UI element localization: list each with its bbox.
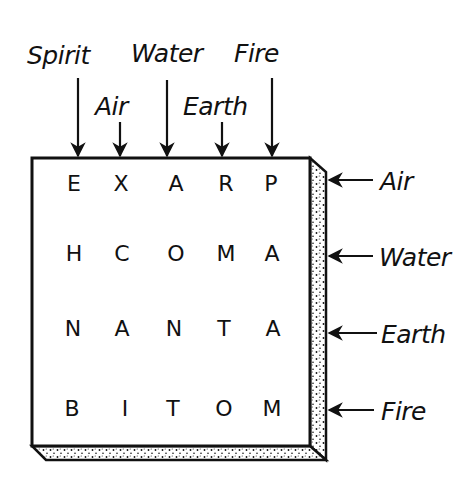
grid-cell-r2c2: C	[114, 241, 129, 266]
grid-cell-r2c5: A	[264, 241, 279, 266]
grid-cell-r4c1: B	[64, 396, 79, 421]
grid-cell-r3c5: A	[265, 316, 280, 341]
grid-cell-r1c4: R	[218, 171, 233, 196]
slab-bottom-side	[32, 446, 326, 460]
grid-cell-r4c3: T	[165, 396, 180, 421]
top-labels: Spirit Air Water Earth Fire	[27, 39, 279, 121]
diagram-canvas: Spirit Air Water Earth Fire E X A R P H …	[0, 0, 476, 491]
side-label-fire: Fire	[381, 397, 426, 426]
side-label-water: Water	[379, 243, 453, 272]
grid-cell-r2c4: M	[217, 241, 236, 266]
grid-cell-r3c3: N	[166, 316, 182, 341]
grid-cell-r4c4: O	[215, 396, 232, 421]
top-label-fire: Fire	[234, 39, 279, 68]
grid-cell-r1c1: E	[67, 171, 81, 196]
grid-cell-r3c4: T	[216, 316, 231, 341]
top-label-spirit: Spirit	[27, 41, 91, 70]
side-labels: Air Water Earth Fire	[378, 167, 453, 426]
grid-cell-r1c3: A	[168, 171, 183, 196]
top-label-air: Air	[93, 92, 130, 121]
slab-right-side	[310, 158, 326, 460]
grid-cell-r1c5: P	[264, 171, 277, 196]
grid-cell-r3c1: N	[65, 316, 81, 341]
side-label-air: Air	[378, 167, 415, 196]
grid-cell-r4c2: I	[122, 396, 129, 421]
side-label-earth: Earth	[381, 320, 446, 349]
top-label-water: Water	[131, 39, 205, 68]
grid-cell-r2c1: H	[66, 241, 83, 266]
top-label-earth: Earth	[183, 92, 248, 121]
grid-cell-r2c3: O	[167, 241, 184, 266]
side-arrows	[329, 180, 377, 410]
grid-cell-r1c2: X	[113, 171, 128, 196]
grid-cell-r4c5: M	[263, 396, 282, 421]
grid-cell-r3c2: A	[114, 316, 129, 341]
